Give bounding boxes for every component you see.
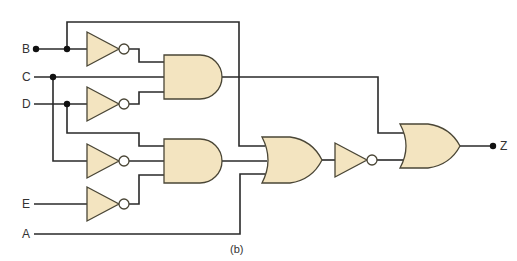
not-gate-5: [335, 143, 377, 177]
output-label-z: Z: [500, 140, 507, 152]
input-label-a: A: [22, 228, 30, 240]
not-gate-1: [87, 32, 129, 66]
or-gate-2: [400, 124, 460, 168]
logic-circuit-diagram: [0, 0, 517, 261]
or-gate-1: [262, 137, 322, 183]
c-junction-dot: [50, 74, 56, 80]
input-label-c: C: [22, 71, 31, 83]
b-terminal-dot: [33, 46, 39, 52]
wire-and1-to-or2: [222, 77, 404, 133]
input-label-e: E: [22, 198, 30, 210]
z-terminal-dot: [490, 143, 496, 149]
not-gate-3: [87, 144, 129, 178]
wire-c-to-not3: [53, 77, 87, 161]
wire-not4-to-and2: [129, 175, 164, 204]
not-gate-4: [87, 187, 129, 221]
input-label-d: D: [22, 98, 31, 110]
not-gate-2: [87, 87, 129, 121]
and-gate-2: [164, 139, 222, 183]
wire-not2-to-and1: [129, 92, 164, 104]
and-gate-1: [164, 55, 222, 99]
d-junction-dot: [64, 101, 70, 107]
wire-d-to-and2: [67, 104, 164, 146]
figure-caption: (b): [230, 243, 243, 255]
wire-not1-to-and1: [129, 49, 164, 62]
b-junction-dot: [64, 46, 70, 52]
input-label-b: B: [22, 43, 30, 55]
